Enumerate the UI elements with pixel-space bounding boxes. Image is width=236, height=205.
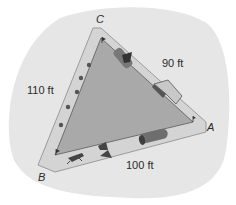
- side-label-ba: 100 ft: [126, 159, 154, 171]
- vertex-label-c: C: [96, 13, 104, 25]
- agility-course-diagram: C A B 90 ft 110 ft 100 ft: [0, 0, 236, 205]
- side-label-ca: 90 ft: [162, 57, 183, 69]
- vertex-label-a: A: [206, 121, 214, 133]
- side-label-cb: 110 ft: [27, 84, 54, 96]
- vertex-label-b: B: [38, 171, 45, 183]
